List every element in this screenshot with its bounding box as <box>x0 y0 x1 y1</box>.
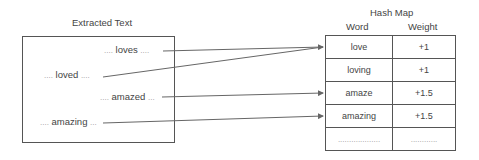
arrow-amazing-to-amazing <box>103 116 323 123</box>
arrow-amazed-to-amaze <box>162 93 323 97</box>
mapping-arrows <box>0 0 479 160</box>
arrow-loved-to-love <box>103 47 323 77</box>
